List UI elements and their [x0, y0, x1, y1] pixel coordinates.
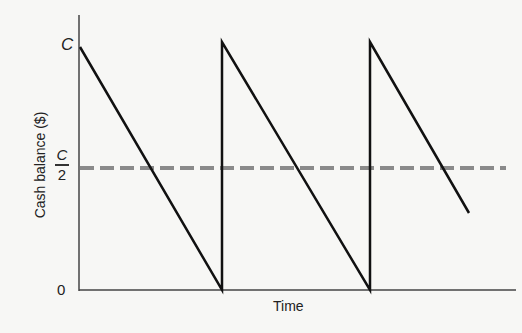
y-tick-c: C	[61, 35, 73, 55]
y-tick-c-half: C 2	[55, 147, 69, 183]
fraction-numerator: C	[57, 146, 68, 163]
y-axis-label: Cash balance ($)	[32, 112, 48, 219]
fraction-denominator: 2	[58, 166, 66, 183]
y-tick-zero: 0	[57, 281, 65, 298]
sawtooth-chart	[0, 0, 522, 333]
x-axis-label: Time	[273, 298, 304, 314]
